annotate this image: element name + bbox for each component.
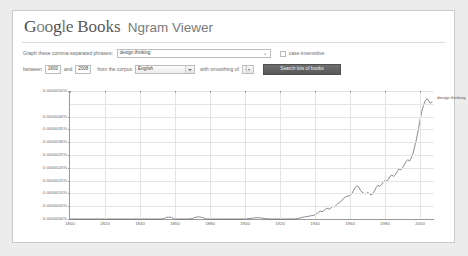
y-axis-tick-label: 0.0000025% (43, 153, 67, 157)
y-axis-tick-label: 0.0000000% (43, 217, 67, 221)
gridline-horizontal (70, 91, 434, 92)
x-axis-tick-label: 1840 (135, 222, 145, 226)
between-label: between (23, 67, 42, 72)
corpus-label: from the corpus (97, 67, 132, 72)
x-axis-tick-label: 1980 (380, 222, 390, 226)
x-axis-tick-label: 1960 (345, 222, 355, 226)
x-axis-tick-label: 1920 (275, 222, 285, 226)
smoothing-select[interactable]: 3 (242, 65, 254, 74)
google-logo: Google (24, 16, 73, 37)
options-row: between 1800 and 2008 from the corpus En… (23, 64, 341, 75)
phrase-label: Graph these comma-separated phrases: (23, 51, 113, 56)
y-axis-tick-label: 0.0000040% (43, 114, 67, 118)
gridline-vertical (140, 91, 141, 219)
x-axis-tick-mark (280, 91, 281, 93)
smoothing-label: with smoothing of (200, 67, 239, 72)
chart-area: design thinking 0.0000050%0.0000040%0.00… (22, 83, 446, 238)
gridline-vertical (385, 91, 386, 219)
gridline-vertical (175, 91, 176, 219)
x-axis-tick-mark (350, 91, 351, 93)
x-axis-tick-label: 1800 (65, 222, 75, 226)
x-axis-tick-label: 1860 (170, 222, 180, 226)
gridline-horizontal (70, 117, 434, 118)
y-axis-tick-label: 0.0000030% (43, 140, 67, 144)
x-axis-tick-label: 1900 (240, 222, 250, 226)
year-start-value: 1800 (48, 67, 58, 72)
y-axis-tick-label: 0.0000050% (43, 89, 67, 93)
x-axis-tick-mark (175, 91, 176, 93)
y-axis-tick-mark (68, 193, 70, 194)
x-axis-tick-label: 2000 (415, 222, 425, 226)
y-axis-tick-mark (68, 155, 70, 156)
x-axis-tick-mark (245, 91, 246, 93)
ngram-viewer-page: Google Books Ngram Viewer Graph these co… (0, 0, 468, 256)
x-axis-tick-mark (420, 91, 421, 93)
year-end-input[interactable]: 2008 (75, 65, 91, 74)
phrase-input[interactable]: design thinking × (117, 49, 271, 58)
phrase-input-value: design thinking (120, 51, 151, 56)
y-axis-tick-mark (68, 181, 70, 182)
corpus-value: English (138, 67, 153, 72)
gridline-vertical (245, 91, 246, 219)
year-start-input[interactable]: 1800 (45, 65, 61, 74)
clear-icon[interactable]: × (264, 51, 267, 56)
x-axis-tick-label: 1820 (100, 222, 110, 226)
gridline-vertical (210, 91, 211, 219)
y-axis-tick-mark (68, 117, 70, 118)
logo-letter-e: e (66, 16, 73, 36)
gridline-vertical (280, 91, 281, 219)
y-axis-tick-label: 0.0000010% (43, 191, 67, 195)
y-axis-tick-mark (68, 129, 70, 130)
logo-letter-o1: o (36, 16, 44, 36)
chevron-down-icon[interactable] (246, 66, 252, 73)
search-button[interactable]: Search lots of books (263, 64, 341, 75)
gridline-horizontal (70, 206, 434, 207)
logo-letter-g1: G (24, 16, 36, 36)
logo-letter-o2: o (45, 16, 53, 36)
y-axis-tick-label: 0.0000015% (43, 178, 67, 182)
gridline-vertical (315, 91, 316, 219)
chevron-down-icon[interactable] (185, 66, 193, 73)
books-wordmark: Books (77, 17, 120, 37)
y-axis-tick-mark (68, 168, 70, 169)
case-insensitive-checkbox[interactable] (280, 51, 286, 57)
x-axis-tick-mark (140, 91, 141, 93)
y-axis-tick-label: 0.0000020% (43, 166, 67, 170)
gridline-vertical (350, 91, 351, 219)
year-end-value: 2008 (78, 67, 88, 72)
y-axis-tick-label: 0.0000035% (43, 127, 67, 131)
x-axis-tick-mark (315, 91, 316, 93)
gridline-horizontal (70, 193, 434, 194)
header-divider (22, 42, 445, 43)
gridline-vertical (420, 91, 421, 219)
x-axis-tick-mark (210, 91, 211, 93)
gridline-vertical (105, 91, 106, 219)
content-card: Google Books Ngram Viewer Graph these co… (12, 10, 455, 243)
x-axis-tick-mark (105, 91, 106, 93)
y-axis-tick-mark (68, 206, 70, 207)
case-insensitive-control[interactable]: case-insensitive (280, 51, 325, 57)
x-axis-tick-label: 1880 (205, 222, 215, 226)
masthead: Google Books Ngram Viewer (24, 16, 213, 40)
chart-plot: design thinking 0.0000050%0.0000040%0.00… (69, 91, 434, 220)
and-label: and (64, 67, 72, 72)
gridline-horizontal (70, 129, 434, 130)
y-axis-tick-mark (68, 142, 70, 143)
footer-dots: · · · · · (223, 236, 243, 241)
gridline-horizontal (70, 168, 434, 169)
gridline-horizontal (70, 142, 434, 143)
series-label: design thinking (437, 96, 466, 100)
gridline-horizontal (70, 155, 434, 156)
x-axis-tick-label: 1940 (310, 222, 320, 226)
x-axis-tick-mark (385, 91, 386, 93)
x-axis-tick-mark (70, 91, 71, 93)
case-insensitive-label: case-insensitive (289, 51, 325, 56)
page-title: Ngram Viewer (128, 20, 213, 35)
gridline-horizontal (70, 181, 434, 182)
phrase-row: Graph these comma-separated phrases: des… (23, 49, 324, 58)
corpus-select[interactable]: English (135, 65, 195, 74)
y-axis-tick-label: 0.0000005% (43, 204, 67, 208)
gridline-horizontal (70, 104, 434, 105)
y-axis-tick-mark (68, 219, 70, 220)
